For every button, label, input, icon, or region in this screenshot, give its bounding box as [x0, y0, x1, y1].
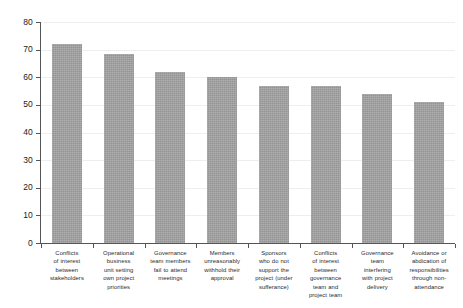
y-axis-labels: 80706050403020100: [0, 0, 33, 308]
bar-chart: 80706050403020100 Conflictsof interestbe…: [0, 0, 463, 308]
x-axis-category-label: Governanceteaminterferingwith projectdel…: [352, 249, 404, 291]
x-tick-mark: [300, 244, 301, 248]
x-axis-category-label: Governanceteam membersfail to attendmeet…: [145, 249, 197, 283]
x-axis-category-label: Membersunreasonablywithhold theirapprova…: [196, 249, 248, 283]
x-axis-category-labels: Conflictsof interestbetweenstakeholdersO…: [41, 249, 455, 307]
y-tick-label-30: 30: [5, 156, 33, 165]
bar: [207, 77, 237, 243]
x-tick-mark: [93, 244, 94, 248]
y-tick-label-70: 70: [5, 45, 33, 54]
bar: [155, 72, 185, 243]
x-tick-mark: [352, 244, 353, 248]
x-axis-category-label: Operationalbusinessunit settingown proje…: [93, 249, 145, 291]
x-tick-mark: [455, 244, 456, 248]
y-tick-label-80: 80: [5, 18, 33, 27]
bar: [362, 94, 392, 243]
bar: [104, 54, 134, 243]
x-tick-mark: [248, 244, 249, 248]
y-tick-label-10: 10: [5, 211, 33, 220]
y-tick-label-20: 20: [5, 183, 33, 192]
x-axis-category-label: Avoidance orabdication ofresponsibilitie…: [403, 249, 455, 291]
y-tick-label-0: 0: [5, 239, 33, 248]
bar: [414, 102, 444, 243]
x-tick-mark: [196, 244, 197, 248]
bar: [311, 86, 341, 243]
bar: [52, 44, 82, 243]
x-tick-mark: [403, 244, 404, 248]
y-tick-label-40: 40: [5, 128, 33, 137]
x-axis-category-label: Sponsorswho do notsupport theproject (un…: [248, 249, 300, 291]
y-tick-label-50: 50: [5, 100, 33, 109]
x-tick-mark: [145, 244, 146, 248]
x-tick-mark: [41, 244, 42, 248]
y-tick-label-60: 60: [5, 73, 33, 82]
x-axis-category-label: Conflictsof interestbetweengovernancetea…: [300, 249, 352, 299]
bars-group: [41, 22, 455, 243]
x-axis-category-label: Conflictsof interestbetweenstakeholders: [41, 249, 93, 283]
bar: [259, 86, 289, 243]
